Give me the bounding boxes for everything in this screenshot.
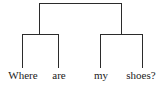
syntax-tree-diagram: Where are my shoes? [0, 0, 162, 86]
root-horizontal-branch [39, 3, 122, 4]
left-subtree-leaf-are [58, 34, 59, 68]
leaf-word-shoes: shoes? [126, 69, 155, 81]
left-subtree-leaf-where [22, 34, 23, 68]
leaf-word-where: Where [8, 69, 37, 81]
right-subtree-leaf-my [100, 34, 101, 68]
leaf-word-are: are [52, 69, 65, 81]
left-subtree-horizontal [22, 34, 59, 35]
leaf-word-my: my [94, 69, 108, 81]
root-right-branch [121, 3, 122, 34]
right-subtree-horizontal [100, 34, 143, 35]
right-subtree-leaf-shoes [142, 34, 143, 68]
root-left-branch [39, 3, 40, 34]
